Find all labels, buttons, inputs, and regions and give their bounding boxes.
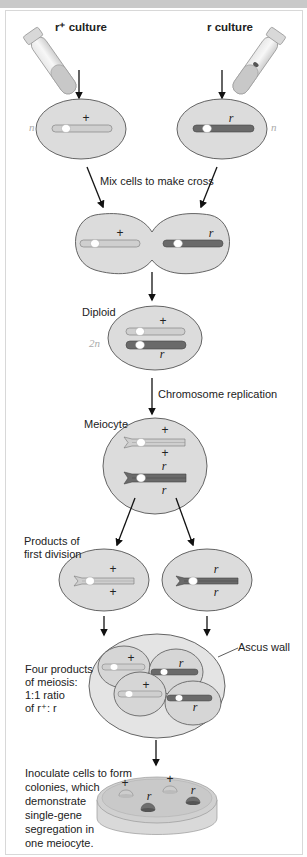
allele-r: r [214,562,219,576]
cell-meiocyte [103,418,207,514]
label-mix-cells: Mix cells to make cross [100,175,214,188]
ploidy-n-right: n [271,121,277,133]
label-meiocyte: Meiocyte [84,418,128,431]
allele-r: r [193,700,198,714]
allele-r: r [147,789,152,803]
allele-plus: + [159,314,166,328]
allele-r: r [191,783,196,797]
allele-plus: + [142,678,149,692]
allele-plus: + [161,423,168,437]
cell-diploid [108,306,202,370]
ploidy-n-left: n [29,121,35,133]
test-tube-r [229,27,286,98]
test-tube-r-plus [23,27,80,98]
label-line: colonies, which [25,780,132,794]
label-line: segregation in [25,822,132,836]
allele-r: r [179,656,184,670]
allele-plus: + [109,562,116,576]
label-line: single-gene [25,808,132,822]
label-inoculate: Inoculate cells to form colonies, which … [25,766,132,850]
allele-plus: + [109,585,116,599]
allele-r: r [160,347,165,361]
ploidy-2n: 2n [89,337,100,349]
allele-plus: + [166,772,173,786]
allele-r: r [214,585,219,599]
meiosis-diagram: + r + r + r + + r r [0,0,307,857]
label-line: demonstrate [25,794,132,808]
allele-plus: + [127,651,134,665]
allele-plus: + [116,226,123,240]
chromosome-replicated-dark [124,472,186,484]
allele-plus: + [82,111,89,125]
ascus-wall-pointer [218,648,238,657]
label-chromosome-replication: Chromosome replication [158,388,277,401]
label-line: first division [24,548,81,561]
chromosome-light [52,125,112,133]
label-products-first-division: Products of first division [24,535,81,561]
label-r-culture: r culture [207,21,253,34]
label-line: of meiosis: [25,676,93,689]
label-r-plus-culture: r⁺ culture [55,21,107,34]
label-line: one meiocyte. [25,836,132,850]
label-line: of r⁺: r [25,702,93,715]
allele-r: r [162,459,167,473]
allele-r: r [162,483,167,497]
allele-r: r [209,226,214,240]
label-line: Inoculate cells to form [25,766,132,780]
label-four-products: Four products of meiosis: 1:1 ratio of r… [25,663,93,715]
label-ascus-wall: Ascus wall [238,641,290,654]
chromosome-dark [193,125,254,133]
allele-r: r [229,111,234,125]
label-line: 1:1 ratio [25,689,93,702]
label-line: Four products [25,663,93,676]
label-line: Products of [24,535,81,548]
allele-plus: + [161,446,168,460]
label-diploid: Diploid [82,306,116,319]
